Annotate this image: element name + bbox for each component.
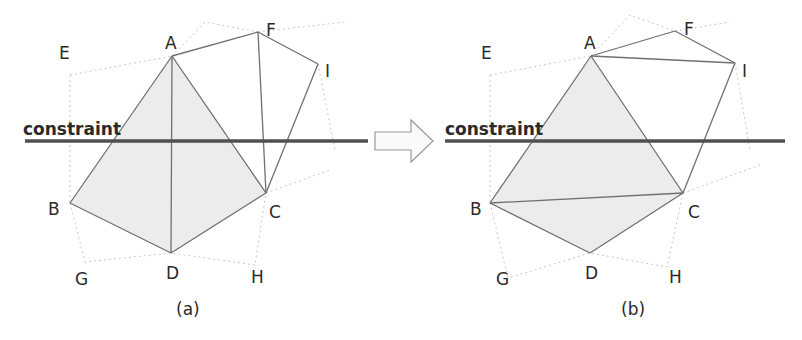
shaded-region-a xyxy=(70,56,266,253)
constraint-label-b: constraint xyxy=(445,119,543,139)
vertex-label-g: G xyxy=(496,269,509,289)
constrained-triangulation-figure: constraint A E F I B C D G H (a) xyxy=(0,0,802,340)
vertex-label-i: I xyxy=(325,61,330,81)
caption-b: (b) xyxy=(621,299,645,319)
vertex-label-e: E xyxy=(59,43,70,63)
panel-a: constraint A E F I B C D G H (a) xyxy=(23,20,368,319)
edge-i-c xyxy=(683,63,735,193)
vertex-label-a: A xyxy=(165,33,177,53)
edge-a-f xyxy=(172,32,258,56)
panel-b: constraint A E F I B C D G H (b) xyxy=(445,15,785,319)
vertex-label-e: E xyxy=(481,43,492,63)
vertex-label-c: C xyxy=(269,202,281,222)
vertex-label-b: B xyxy=(48,199,60,219)
vertex-label-f: F xyxy=(684,19,694,39)
vertex-label-d: D xyxy=(585,263,598,283)
vertex-label-c: C xyxy=(688,202,700,222)
caption-a: (a) xyxy=(176,299,200,319)
vertex-label-g: G xyxy=(75,269,88,289)
right-arrow-icon xyxy=(375,120,433,162)
vertex-label-d: D xyxy=(166,263,179,283)
constraint-label-a: constraint xyxy=(23,119,121,139)
vertex-label-b: B xyxy=(470,199,482,219)
edge-i-c xyxy=(266,64,318,193)
shaded-region-b xyxy=(490,56,683,253)
vertex-label-h: H xyxy=(251,267,264,287)
edge-f-c xyxy=(258,32,266,193)
vertex-label-a: A xyxy=(584,33,596,53)
vertex-label-h: H xyxy=(669,267,682,287)
edge-a-i xyxy=(591,56,735,63)
edge-a-f xyxy=(591,31,675,56)
vertex-label-i: I xyxy=(742,61,747,81)
vertex-label-f: F xyxy=(266,20,276,40)
